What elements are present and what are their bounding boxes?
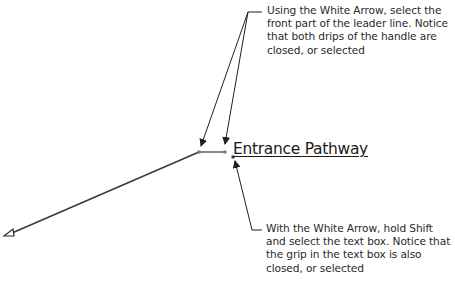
- leader-landing-segment[interactable]: [198, 151, 227, 154]
- leader-line[interactable]: [4, 152, 199, 236]
- entrance-pathway-label[interactable]: Entrance Pathway: [233, 140, 368, 158]
- annotation-bottom: With the White Arrow, hold Shift and sel…: [266, 222, 455, 275]
- hollow-arrowhead-icon: [4, 229, 14, 236]
- grip-handle-right[interactable]: [224, 151, 227, 154]
- annotation-top: Using the White Arrow, select the front …: [267, 4, 455, 57]
- callout-bottom-line: [235, 161, 262, 230]
- callout-top-lines: [201, 12, 262, 146]
- grip-handle-left[interactable]: [198, 151, 201, 154]
